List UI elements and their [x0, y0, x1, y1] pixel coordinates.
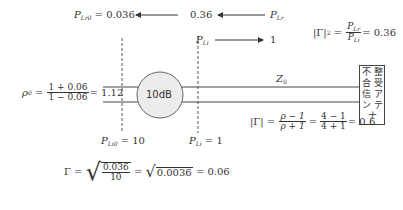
reflected-value: 0.36: [190, 10, 212, 20]
rho-fraction: ρ − 1 ρ + 1: [279, 112, 305, 132]
gamma-abs-formula: |Γ| = ρ − 1 ρ + 1 = 4 − 1 4 + 1 = 0.6: [250, 112, 375, 132]
attenuator-label: 10dB: [146, 89, 172, 100]
sqrt-value: √0.0036: [146, 164, 193, 180]
power-ratio-fraction: PLr PLi: [346, 22, 361, 44]
value-fraction: 4 − 1 4 + 1: [320, 112, 347, 132]
gamma-final-formula: Γ = √ 0.036 10 = √0.0036 = 0.06: [64, 160, 230, 184]
line-impedance-label: Z0: [276, 74, 287, 85]
p-li-label: PLi: [196, 35, 209, 46]
incident-value: 1: [270, 35, 276, 45]
rho0-fraction: 1 + 0.06 1 − 0.06: [47, 83, 88, 103]
p-lr0-label: PLr0 = 0.036: [74, 10, 135, 21]
gamma-squared-formula: |Γ|2 = PLr PLi = 0.36: [313, 22, 396, 44]
p-lr-label: PLr: [270, 10, 284, 21]
sqrt-fraction: √ 0.036 10: [86, 160, 131, 184]
p-li-bottom-label: PLi = 1: [189, 136, 223, 147]
rho0-formula: ρ0 = 1 + 0.06 1 − 0.06 = 1.12: [22, 83, 123, 103]
p-li0-label: PLi0 = 10: [101, 136, 145, 147]
